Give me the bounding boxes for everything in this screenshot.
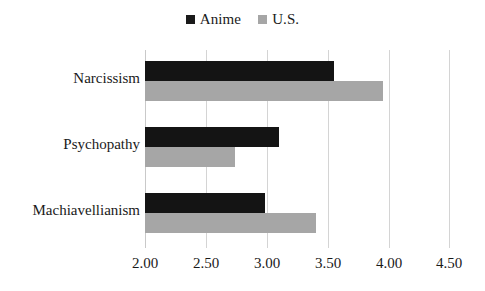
- legend-item-us: U.S.: [258, 12, 299, 27]
- x-tick-label-4: 4.00: [359, 256, 419, 271]
- x-tick-label-3: 3.50: [298, 256, 358, 271]
- y-axis-label-psychopathy: Psychopathy: [0, 137, 140, 152]
- x-tick-label-5: 4.50: [419, 256, 479, 271]
- bar-us-machiavellianism: [145, 213, 316, 233]
- legend-item-anime: Anime: [186, 12, 241, 27]
- gridline-4-00: [389, 50, 390, 248]
- x-tick-label-1: 2.50: [176, 256, 236, 271]
- bar-anime-psychopathy: [145, 127, 279, 147]
- gridline-4-50: [449, 50, 450, 248]
- y-axis-labels: Narcissism Psychopathy Machiavellianism: [0, 50, 140, 248]
- chart-legend: Anime U.S.: [0, 9, 485, 29]
- y-axis-label-machiavellianism: Machiavellianism: [0, 203, 140, 218]
- gray-square-icon: [258, 15, 267, 24]
- y-axis-label-narcissism: Narcissism: [0, 71, 140, 86]
- legend-label-anime: Anime: [200, 12, 241, 27]
- bar-chart: Anime U.S. Narcissism Psychopathy Machia…: [0, 0, 485, 291]
- plot-area: [145, 50, 450, 248]
- x-tick-label-2: 3.00: [237, 256, 297, 271]
- black-square-icon: [186, 15, 195, 24]
- x-tick-label-0: 2.00: [115, 256, 175, 271]
- legend-label-us: U.S.: [272, 12, 299, 27]
- bar-anime-machiavellianism: [145, 193, 265, 213]
- bar-anime-narcissism: [145, 61, 334, 81]
- bar-us-narcissism: [145, 81, 383, 101]
- bar-us-psychopathy: [145, 147, 235, 167]
- x-axis-labels: 2.00 2.50 3.00 3.50 4.00 4.50: [145, 256, 450, 280]
